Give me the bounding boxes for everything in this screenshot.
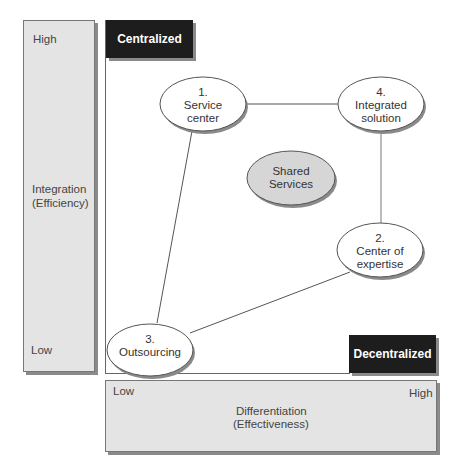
svg-text:Service: Service	[184, 99, 222, 111]
node-shared-services: Shared Services	[247, 151, 335, 205]
edge-3-1	[157, 131, 192, 323]
svg-text:2.: 2.	[375, 232, 385, 244]
centralized-label: Centralized	[106, 20, 193, 58]
svg-text:Shared: Shared	[272, 165, 309, 177]
node-service-center: 1. Service center	[160, 77, 246, 131]
svg-text:Center of: Center of	[356, 245, 404, 257]
svg-text:Services: Services	[269, 178, 313, 190]
diagram-canvas: 1. Service center 4. Integrated solution…	[0, 0, 459, 471]
svg-text:Integrated: Integrated	[355, 99, 407, 111]
node-outsourcing: 3. Outsourcing	[107, 324, 193, 376]
svg-text:expertise: expertise	[357, 258, 404, 270]
svg-text:Outsourcing: Outsourcing	[119, 346, 181, 358]
svg-text:center: center	[187, 112, 219, 124]
edge-2-3	[190, 272, 350, 333]
svg-text:1.: 1.	[198, 86, 208, 98]
decentralized-label: Decentralized	[349, 335, 436, 373]
node-center-of-expertise: 2. Center of expertise	[337, 223, 423, 277]
svg-text:solution: solution	[361, 112, 401, 124]
svg-text:3.: 3.	[145, 333, 155, 345]
node-integrated-solution: 4. Integrated solution	[338, 77, 424, 131]
svg-text:4.: 4.	[376, 86, 386, 98]
